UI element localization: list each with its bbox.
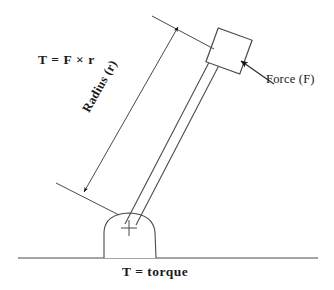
force-block	[206, 28, 252, 74]
dimension-extension-upper	[152, 16, 214, 49]
dimension-extension-lower	[56, 183, 119, 215]
torque-formula-label: T = F × r	[38, 52, 95, 68]
torque-diagram: T = F × r Radius (r) Force (F) T = torqu…	[0, 0, 334, 290]
torque-figure-canvas	[0, 0, 334, 290]
fulcrum-dome	[104, 213, 156, 258]
figure-caption: T = torque	[122, 264, 188, 280]
lever-arm-shaft	[125, 47, 228, 225]
radius-dimension-line	[84, 27, 178, 192]
force-callout-label: Force (F)	[266, 72, 315, 87]
